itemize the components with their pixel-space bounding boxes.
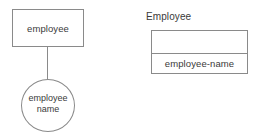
er-entity-label: employee [27, 23, 69, 34]
table-header-row [152, 31, 247, 54]
er-attribute-ellipse: employee name [21, 79, 75, 132]
er-attribute-label-line-2: name [37, 104, 60, 115]
table-cell-label: employee-name [165, 58, 234, 69]
table-caption: Employee [146, 11, 191, 23]
diagram-canvas: employee employee name Employee employee… [0, 0, 255, 132]
er-entity-rectangle: employee [12, 9, 84, 47]
er-connector-line [47, 47, 48, 80]
table-row: employee-name [152, 54, 247, 73]
er-attribute-label-line-1: employee [28, 93, 67, 104]
table-box: employee-name [151, 30, 248, 74]
